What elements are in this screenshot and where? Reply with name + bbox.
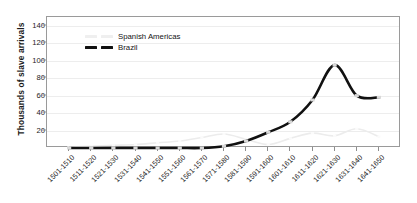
data-point-marker	[111, 147, 115, 150]
data-point-marker	[311, 132, 314, 134]
data-point-marker	[178, 140, 181, 142]
data-point-marker	[377, 136, 380, 138]
legend-label-spanish-americas: Spanish Americas	[118, 32, 180, 41]
legend-label-brazil: Brazil	[118, 43, 138, 52]
data-point-marker	[156, 142, 159, 144]
chart-container: Thousands of slave arrivals 204060801001…	[0, 0, 417, 203]
y-tick-label: 80	[11, 73, 45, 82]
data-point-marker	[355, 94, 359, 97]
data-point-marker	[200, 147, 204, 150]
data-point-marker	[134, 143, 137, 145]
data-point-marker	[266, 131, 270, 134]
y-tick-label: 20	[11, 125, 45, 134]
y-tick-label: 100	[11, 55, 45, 64]
y-tick-label: 120	[11, 38, 45, 47]
y-tick-label: 140	[11, 20, 45, 29]
data-point-marker	[310, 98, 314, 101]
legend-swatch-brazil	[85, 43, 115, 52]
data-point-marker	[222, 145, 226, 148]
data-point-marker	[178, 147, 182, 150]
data-point-marker	[267, 143, 270, 145]
y-tick-label: 60	[11, 90, 45, 99]
data-point-marker	[288, 120, 292, 123]
data-point-marker	[112, 144, 115, 146]
chart-legend: Spanish Americas Brazil	[85, 31, 180, 53]
data-point-marker	[89, 147, 93, 150]
data-point-marker	[377, 96, 381, 99]
data-point-marker	[200, 136, 203, 138]
data-point-marker	[333, 135, 336, 137]
data-point-marker	[355, 128, 358, 130]
legend-entry-brazil: Brazil	[85, 42, 180, 53]
data-point-marker	[156, 147, 160, 150]
series-line-spanish-americas	[69, 129, 379, 147]
data-point-marker	[133, 147, 137, 150]
legend-swatch-spanish-americas	[85, 32, 115, 41]
data-point-marker	[333, 64, 337, 67]
data-point-marker	[222, 133, 225, 135]
legend-entry-spanish-americas: Spanish Americas	[85, 31, 180, 42]
data-point-marker	[289, 137, 292, 139]
data-point-marker	[244, 140, 248, 143]
data-point-marker	[67, 147, 71, 150]
y-tick-label: 40	[11, 108, 45, 117]
